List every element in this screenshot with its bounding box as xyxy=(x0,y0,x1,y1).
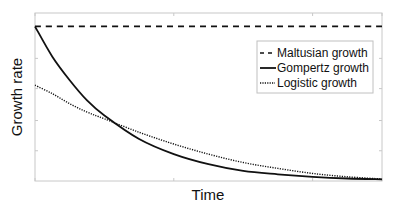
y-axis-label: Growth rate xyxy=(8,58,25,136)
legend: Maltusian growth Gompertz growth Logisti… xyxy=(257,41,373,93)
legend-label-logistic: Logistic growth xyxy=(277,76,357,90)
legend-label-maltusian: Maltusian growth xyxy=(277,46,368,60)
legend-label-gompertz: Gompertz growth xyxy=(277,61,369,75)
axis-ticks xyxy=(35,13,382,181)
axes-box xyxy=(35,13,382,181)
growth-rate-chart: Time Growth rate Maltusian growth Gomper… xyxy=(0,0,394,209)
x-axis-label: Time xyxy=(192,186,225,203)
